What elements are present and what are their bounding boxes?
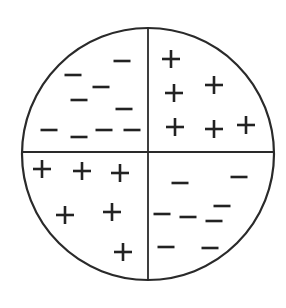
plus-sign-icon — [237, 116, 255, 134]
plus-sign-icon — [103, 203, 121, 221]
quadrant-bottom-right — [154, 177, 248, 248]
plus-sign-icon — [165, 84, 183, 102]
plus-sign-icon — [56, 206, 74, 224]
quadrant-top-right — [162, 50, 255, 138]
plus-sign-icon — [73, 162, 91, 180]
quadrant-bottom-left — [33, 160, 132, 261]
plus-sign-icon — [205, 76, 223, 94]
plus-sign-icon — [114, 243, 132, 261]
plus-sign-icon — [166, 118, 184, 136]
plus-sign-icon — [205, 120, 223, 138]
plus-sign-icon — [33, 160, 51, 178]
plus-sign-icon — [162, 50, 180, 68]
quadrant-top-left — [41, 61, 141, 137]
charge-diagram — [0, 0, 286, 308]
plus-sign-icon — [111, 164, 129, 182]
